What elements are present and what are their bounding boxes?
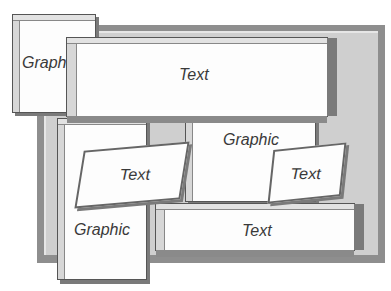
- bevel-right: [354, 204, 364, 250]
- bevel-left: [67, 38, 77, 116]
- bevel-bottom: [156, 250, 354, 257]
- text-block-skewed-right: Text: [268, 142, 347, 203]
- block-label: Text: [291, 165, 321, 183]
- block-label: Text: [120, 166, 150, 184]
- bevel-left: [13, 15, 20, 112]
- text-block-top-wide: Text: [66, 37, 328, 117]
- bevel-left: [58, 119, 65, 279]
- text-block-skewed-left: Text: [74, 142, 189, 209]
- bevel-bottom: [67, 116, 327, 123]
- bevel-left: [156, 204, 165, 250]
- bevel-top: [13, 15, 95, 21]
- block-label: Graphic: [223, 131, 279, 149]
- block-label: Graphic: [74, 221, 130, 239]
- bevel-right: [327, 38, 337, 116]
- bevel-top: [67, 38, 327, 44]
- block-label: Text: [242, 222, 272, 240]
- block-label: Text: [179, 66, 209, 84]
- text-block-bottom-wide: Text: [155, 203, 355, 251]
- bevel-top: [156, 204, 354, 210]
